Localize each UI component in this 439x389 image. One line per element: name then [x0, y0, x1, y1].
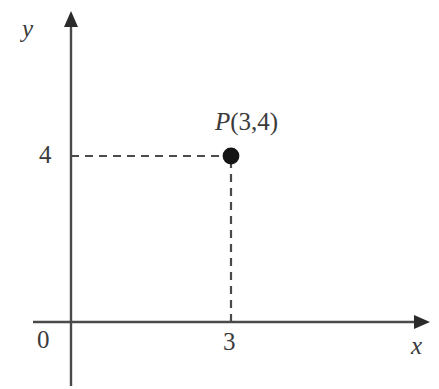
point-label-P: P(3,4) [215, 109, 278, 134]
y-axis-arrowhead [64, 11, 78, 27]
x-tick-label-3: 3 [223, 329, 236, 354]
x-axis-arrowhead [414, 315, 430, 329]
y-axis-label: y [22, 16, 33, 41]
point-label-name: P [215, 108, 230, 135]
plot-canvas [0, 0, 439, 389]
origin-label: 0 [37, 327, 50, 352]
y-tick-label-4: 4 [39, 142, 52, 167]
point-label-coords: (3,4) [230, 108, 278, 135]
coordinate-plane-figure: y x 4 0 3 P(3,4) [0, 0, 439, 389]
x-axis-label: x [411, 333, 422, 358]
point-marker-P [223, 148, 240, 165]
